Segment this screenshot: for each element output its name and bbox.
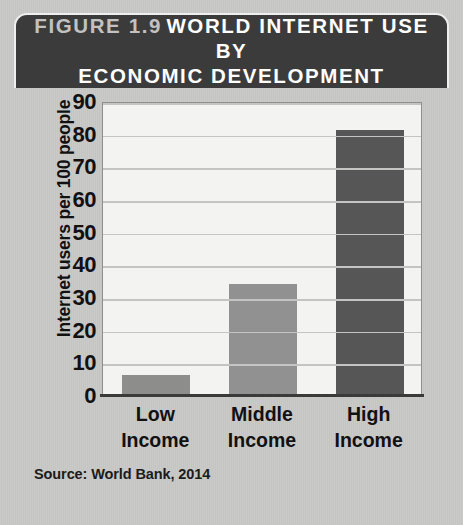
x-tick-label: LowIncome xyxy=(102,402,209,453)
figure-header-text: FIGURE 1.9 WORLD INTERNET USE BY ECONOMI… xyxy=(16,13,447,88)
figure-number: FIGURE 1.9 xyxy=(34,14,162,37)
bar xyxy=(336,130,404,395)
y-tick-label: 0 xyxy=(46,383,96,409)
y-tick-label: 90 xyxy=(46,89,96,115)
y-tick-label: 10 xyxy=(46,350,96,376)
gridline xyxy=(103,201,421,203)
y-tick-label: 70 xyxy=(46,154,96,180)
y-tick-label: 30 xyxy=(46,285,96,311)
figure-header: FIGURE 1.9 WORLD INTERNET USE BY ECONOMI… xyxy=(14,13,449,88)
x-axis-line xyxy=(100,394,424,397)
plot-area xyxy=(102,102,422,396)
y-tick-label: 40 xyxy=(46,252,96,278)
y-tick-label: 50 xyxy=(46,220,96,246)
y-tick-label: 20 xyxy=(46,318,96,344)
gridline xyxy=(103,299,421,301)
figure-title-line-1: WORLD INTERNET USE BY xyxy=(166,14,428,62)
y-axis-ticks: 0102030405060708090 xyxy=(46,102,96,396)
gridline xyxy=(103,266,421,268)
figure-title-line-2: ECONOMIC DEVELOPMENT xyxy=(78,64,385,87)
x-tick-label: HighIncome xyxy=(315,402,422,453)
y-tick-label: 60 xyxy=(46,187,96,213)
gridline xyxy=(103,168,421,170)
y-tick-label: 80 xyxy=(46,122,96,148)
gridline xyxy=(103,332,421,334)
gridline xyxy=(103,136,421,138)
bars-layer xyxy=(103,103,421,395)
source-note: Source: World Bank, 2014 xyxy=(34,466,210,482)
x-axis-labels: LowIncomeMiddleIncomeHighIncome xyxy=(102,402,422,464)
x-tick-label: MiddleIncome xyxy=(209,402,316,453)
bar xyxy=(122,375,190,395)
figure-card: FIGURE 1.9 WORLD INTERNET USE BY ECONOMI… xyxy=(0,0,463,525)
gridline xyxy=(103,234,421,236)
chart: Internet users per 100 people 0102030405… xyxy=(14,88,449,513)
bar xyxy=(229,284,297,395)
gridline xyxy=(103,364,421,366)
gridline xyxy=(103,103,421,105)
